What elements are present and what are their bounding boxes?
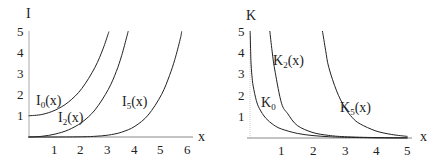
left-y-tick: 1	[17, 108, 24, 123]
left-y-tick: 4	[17, 45, 24, 60]
right-y-tick: 1	[238, 109, 245, 124]
left-x-axis-label: x	[198, 129, 205, 144]
left-x-ticks: 1 2 3 4 5 6	[51, 142, 191, 157]
right-y-tick: 2	[238, 88, 245, 103]
right-x-ticks: 1 2 3 4 5	[278, 143, 411, 158]
left-y-tick: 3	[17, 66, 24, 81]
left-x-tick: 1	[51, 142, 58, 157]
label-I5: I5(x)	[122, 94, 148, 111]
curve-K5	[322, 31, 407, 136]
left-y-axis-label: I	[26, 6, 31, 21]
curve-I5	[29, 31, 182, 137]
right-x-tick: 1	[278, 143, 285, 158]
label-I2: I2(x)	[58, 110, 84, 127]
label-I0: I0(x)	[36, 93, 62, 110]
left-x-tick: 6	[184, 142, 191, 157]
left-y-tick: 2	[17, 87, 24, 102]
right-y-tick: 5	[238, 24, 245, 39]
right-y-axis-label: K	[246, 8, 256, 23]
chart-modified-bessel-I: I x 1 2 3 4 5 1 2 3 4 5 6 I0(x) I2(x) I5…	[17, 6, 205, 157]
label-K0: K0	[261, 95, 276, 112]
chart-modified-bessel-K: K x 1 2 3 4 5 1 2 3 4 5 K0 K2(x) K5(x)	[238, 8, 427, 158]
curve-K0	[250, 31, 407, 138]
right-x-tick: 5	[404, 143, 411, 158]
bessel-figure: I x 1 2 3 4 5 1 2 3 4 5 6 I0(x) I2(x) I5…	[0, 0, 441, 162]
right-y-tick: 3	[238, 66, 245, 81]
right-x-tick: 2	[310, 143, 317, 158]
right-x-axis-label: x	[420, 129, 427, 144]
right-x-tick: 3	[342, 143, 349, 158]
left-x-tick: 2	[77, 142, 84, 157]
left-y-tick: 5	[17, 24, 24, 39]
label-K5: K5(x)	[340, 100, 371, 117]
left-x-tick: 5	[157, 142, 164, 157]
label-K2: K2(x)	[273, 53, 304, 70]
right-x-tick: 4	[373, 143, 380, 158]
right-y-ticks: 1 2 3 4 5	[238, 24, 245, 124]
left-y-ticks: 1 2 3 4 5	[17, 24, 24, 123]
left-x-tick: 3	[104, 142, 111, 157]
curve-K2	[270, 31, 408, 138]
right-y-tick: 4	[238, 45, 245, 60]
left-x-tick: 4	[131, 142, 138, 157]
